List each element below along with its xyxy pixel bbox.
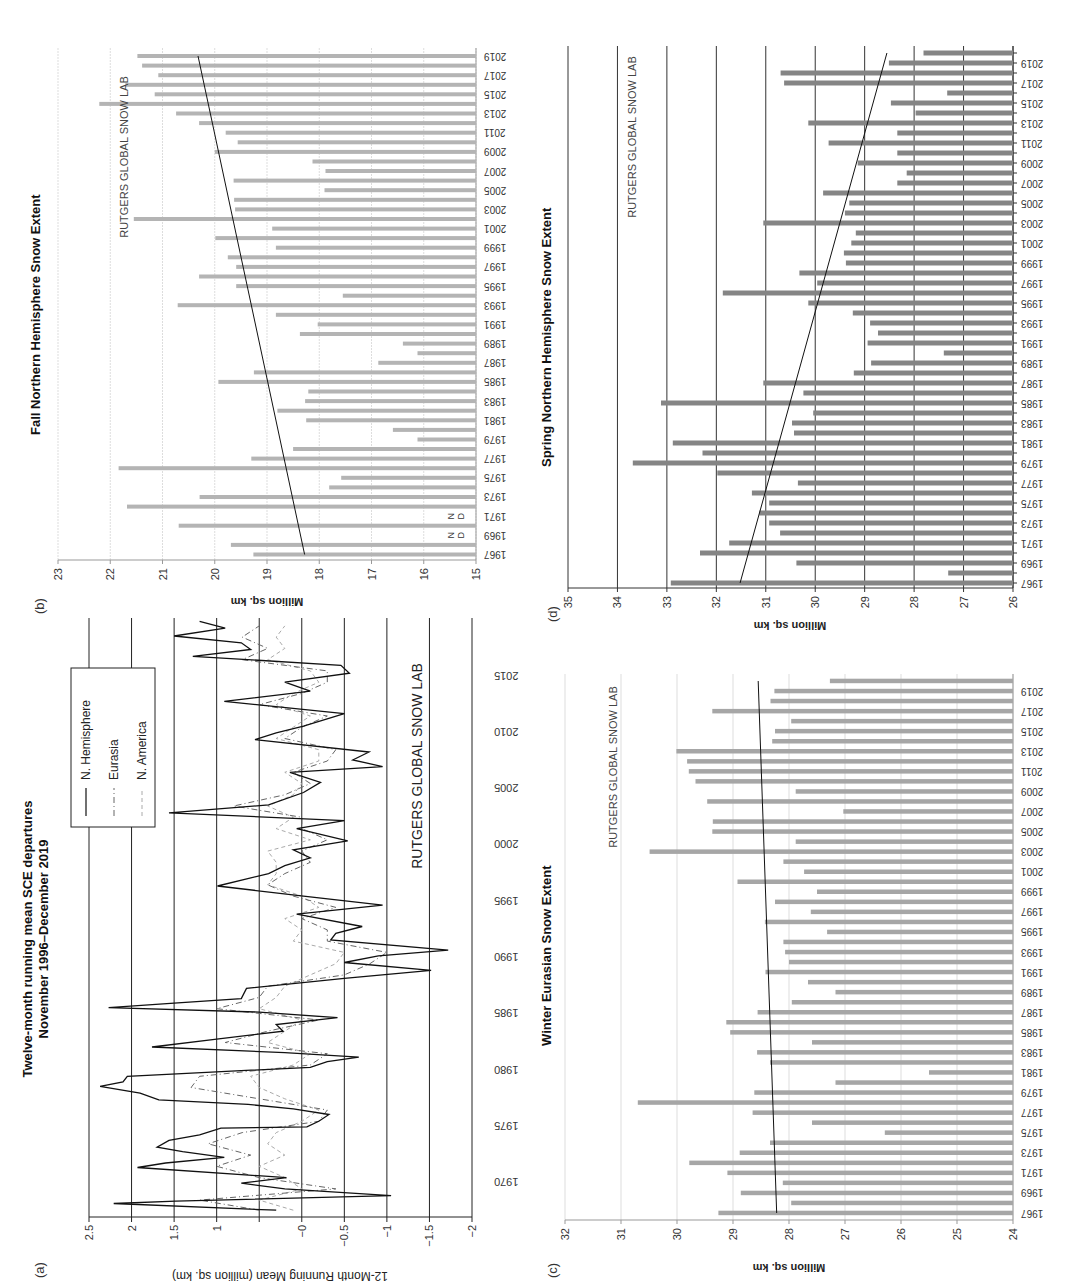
bar-1992	[878, 331, 1013, 336]
year-label: 2019	[484, 51, 507, 62]
bar-1996	[765, 920, 1013, 925]
bar-2012	[199, 121, 476, 125]
year-label: 1977	[484, 453, 507, 464]
y-tick-label: 15	[470, 568, 482, 580]
y-tick-label: 35	[562, 596, 574, 608]
bar-1990	[944, 351, 1013, 356]
year-label: 1979	[484, 434, 507, 445]
bar-1994	[343, 294, 476, 298]
panel-label-d: (d)	[545, 606, 560, 622]
bar-1986	[726, 1020, 1013, 1025]
bar-1995	[236, 284, 476, 288]
bar-1991	[868, 341, 1013, 346]
bar-2014	[772, 739, 1013, 744]
year-label: 1969	[1021, 558, 1044, 569]
bar-1977	[798, 481, 1013, 486]
panel-b-year-labels: 1967196919711973197519771979198119831985…	[484, 51, 507, 561]
y-tick-label: 20	[209, 568, 221, 580]
bar-1981	[306, 418, 476, 422]
bar-1985	[730, 1030, 1013, 1035]
bar-2018	[781, 71, 1013, 76]
y-tick-label: 1.5	[168, 1225, 180, 1240]
bar-1996	[723, 291, 1013, 296]
year-label: 1973	[484, 491, 507, 502]
bar-1976	[119, 466, 476, 470]
bar-2005	[849, 201, 1013, 206]
year-label: 1979	[1021, 1087, 1044, 1098]
bar-1979	[418, 438, 477, 442]
year-label: 1981	[484, 415, 507, 426]
bar-1967	[671, 581, 1013, 586]
bar-2015	[775, 729, 1013, 734]
bar-1996	[199, 275, 476, 279]
bar-1997	[236, 265, 476, 269]
bar-1983	[757, 1050, 1013, 1055]
bar-2008	[707, 799, 1013, 804]
no-data-marker: D	[456, 512, 466, 519]
bar-1989	[403, 342, 476, 346]
bar-1988	[418, 351, 477, 355]
bar-2003	[650, 849, 1013, 854]
panel-b-fall-nh-snow-chart: (b) Fall Northern Hemisphere Snow Extent…	[28, 48, 506, 614]
x-tick-label: 2010	[494, 726, 518, 738]
year-label: 1969	[1021, 1187, 1044, 1198]
y-tick-label: 34	[611, 596, 623, 608]
bar-1982	[277, 409, 476, 413]
year-label: 1967	[1021, 578, 1044, 589]
legend-item-n-america: N. America	[135, 721, 149, 780]
year-label: 1985	[1021, 1027, 1044, 1038]
y-tick-label: 18	[313, 568, 325, 580]
bar-1991	[318, 322, 476, 326]
year-label: 1995	[1021, 298, 1044, 309]
y-tick-label: 28	[908, 596, 920, 608]
panel-a-x-ticks: 1970197519801985199019952000200520102015	[494, 670, 518, 1189]
y-tick-label: 27	[839, 1228, 851, 1240]
bar-2005	[712, 829, 1013, 834]
year-label: 1991	[1021, 967, 1044, 978]
year-label: 2009	[484, 146, 507, 157]
y-tick-label: 31	[760, 596, 772, 608]
y-tick-label: 26	[895, 1228, 907, 1240]
bar-1988	[854, 371, 1013, 376]
year-label: 1983	[1021, 418, 1044, 429]
legend-item-eurasia: Eurasia	[107, 739, 121, 780]
bar-2004	[234, 198, 476, 202]
year-label: 1987	[1021, 378, 1044, 389]
y-tick-label: 30	[809, 596, 821, 608]
year-label: 1993	[1021, 318, 1044, 329]
bar-1999	[817, 890, 1013, 895]
bar-1970	[700, 551, 1013, 556]
bar-1972	[127, 505, 476, 509]
year-label: 1991	[484, 319, 507, 330]
panel-c-y-axis-label: Million sq. km	[752, 1262, 825, 1274]
year-label: 1967	[484, 549, 507, 560]
bar-2000	[844, 251, 1013, 256]
year-label: 1989	[1021, 358, 1044, 369]
bar-1970	[179, 524, 476, 528]
year-label: 1987	[484, 357, 507, 368]
bar-1987	[763, 381, 1013, 386]
year-label: 2005	[1021, 826, 1044, 837]
bar-1979	[754, 1090, 1013, 1095]
y-tick-label: 19	[261, 568, 273, 580]
bar-1971	[729, 541, 1013, 546]
panel-c-title: Winter Eurasian Snow Extent	[539, 865, 554, 1046]
bar-2020	[830, 679, 1013, 684]
year-label: 1991	[1021, 338, 1044, 349]
bar-1999	[276, 246, 476, 250]
year-label: 2003	[1021, 846, 1044, 857]
bar-2004	[796, 839, 1013, 844]
year-label: 1995	[1021, 926, 1044, 937]
year-label: 2013	[1021, 746, 1044, 757]
x-tick-label: 1995	[494, 895, 518, 907]
bar-2001	[851, 241, 1013, 246]
year-label: 1985	[484, 376, 507, 387]
bar-1980	[703, 451, 1014, 456]
bar-1982	[770, 1060, 1013, 1065]
bar-2019	[889, 61, 1013, 66]
bar-2005	[325, 188, 477, 192]
year-label: 1997	[1021, 278, 1044, 289]
no-data-marker: N	[446, 513, 456, 520]
bar-1968	[791, 1201, 1013, 1206]
panel-d-title: Spring Northern Hemisphere Snow Extent	[539, 207, 554, 467]
